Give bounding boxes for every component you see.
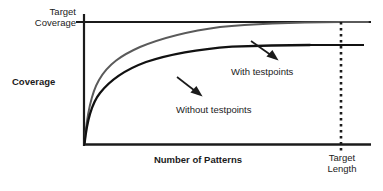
target-coverage-label-line2: Coverage <box>16 17 76 28</box>
target-length-label-line2: Length <box>316 163 368 174</box>
target-coverage-label-line1: Target <box>16 6 76 17</box>
x-axis-title: Number of Patterns <box>128 154 268 165</box>
target-length-axis-label: Target Length <box>316 152 368 174</box>
target-length-label-line1: Target <box>316 152 368 163</box>
y-axis-title: Coverage <box>12 76 74 87</box>
chart-figure: Target Coverage Coverage Number of Patte… <box>0 0 383 191</box>
annotation-without-testpoints: Without testpoints <box>176 104 252 115</box>
without-testpoints-arrow <box>177 77 203 97</box>
annotation-with-testpoints: With testpoints <box>231 66 293 77</box>
target-coverage-axis-label: Target Coverage <box>16 6 76 28</box>
with-testpoints-arrow <box>251 41 279 61</box>
series-line-with-testpoints <box>85 22 369 144</box>
